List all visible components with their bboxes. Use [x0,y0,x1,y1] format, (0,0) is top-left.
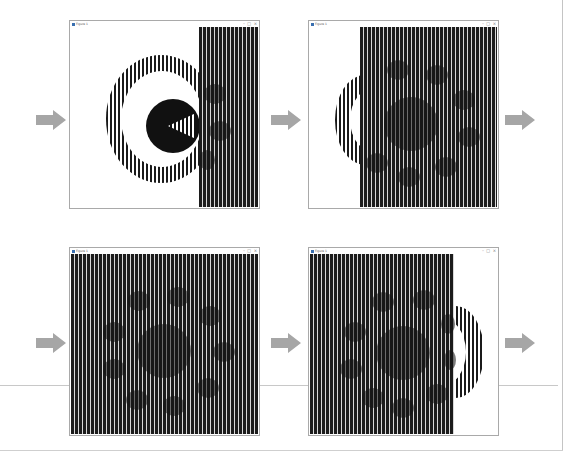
dot-shape [435,157,457,177]
dot-shape [444,350,456,370]
close-button[interactable]: × [493,248,496,254]
close-button[interactable]: × [254,21,257,27]
dot-shape [213,342,235,362]
dot-shape [167,287,189,307]
dot-shape [128,291,150,311]
dot-shape [366,153,388,173]
dot-shape [372,292,394,312]
dot-shape [163,396,185,416]
figure-canvas [310,254,497,434]
window-title: Figure 1 [315,21,327,27]
app-icon [311,250,314,253]
dot-shape [197,378,219,398]
dot-shape [199,306,221,326]
dot-shape [209,121,231,141]
maximize-button[interactable]: □ [247,21,251,27]
dot-shape [204,84,226,104]
figure-window-frame-4[interactable]: Figure 1 – □ × [308,247,499,436]
figure-canvas [71,254,258,434]
dot-shape [398,167,420,187]
window-title: Figure 1 [315,248,327,254]
dot-shape [199,150,215,170]
right-arrow-icon [505,110,535,130]
right-arrow-icon [36,110,66,130]
close-button[interactable]: × [254,248,257,254]
window-title: Figure 1 [76,248,88,254]
maximize-button[interactable]: □ [486,248,490,254]
dot-shape [426,65,448,85]
dot-shape [392,398,414,418]
app-icon [72,23,75,26]
minimize-button[interactable]: – [482,248,484,254]
maximize-button[interactable]: □ [247,248,251,254]
pacman-shape [376,326,430,380]
figure-window-frame-2[interactable]: Figure 1 – □ × [308,20,499,209]
dot-shape [340,359,362,379]
minimize-button[interactable]: – [482,21,484,27]
dot-shape [362,388,384,408]
dot-shape [103,359,125,379]
dot-shape [426,384,448,404]
pacman-shape [384,97,438,151]
close-button[interactable]: × [493,21,496,27]
window-titlebar[interactable]: Figure 1 – □ × [70,21,259,27]
right-arrow-icon [36,333,66,353]
dot-shape [413,290,435,310]
window-titlebar[interactable]: Figure 1 – □ × [309,248,498,254]
right-arrow-icon [271,333,301,353]
bottom-divider [0,450,563,451]
dot-shape [453,90,475,110]
minimize-button[interactable]: – [243,21,245,27]
dot-shape [103,322,125,342]
maximize-button[interactable]: □ [486,21,490,27]
dot-shape [441,314,455,334]
dot-shape [387,60,409,80]
app-icon [311,23,314,26]
dot-shape [344,322,366,342]
figure-window-frame-3[interactable]: Figure 1 – □ × [69,247,260,436]
figure-canvas [310,27,497,207]
figure-canvas [71,27,258,207]
dot-shape [126,390,148,410]
window-titlebar[interactable]: Figure 1 – □ × [70,248,259,254]
right-arrow-icon [271,110,301,130]
minimize-button[interactable]: – [243,248,245,254]
window-titlebar[interactable]: Figure 1 – □ × [309,21,498,27]
window-title: Figure 1 [76,21,88,27]
pacman-shape [137,324,191,378]
figure-window-frame-1[interactable]: Figure 1 – □ × [69,20,260,209]
app-icon [72,250,75,253]
dot-shape [458,127,480,147]
stripe-overlay [199,27,258,207]
right-arrow-icon [505,333,535,353]
vertical-divider [562,0,563,451]
